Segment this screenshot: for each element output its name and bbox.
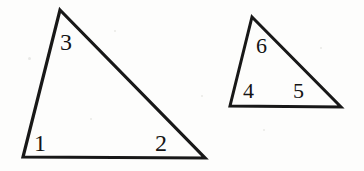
angle-label-5: 5 (293, 78, 304, 103)
labels-layer: 1 2 3 4 5 6 (34, 29, 304, 156)
left-triangle (23, 10, 205, 158)
triangles-diagram: 1 2 3 4 5 6 (0, 0, 364, 171)
angle-label-6: 6 (256, 33, 267, 58)
angle-label-2: 2 (155, 130, 167, 156)
angle-label-4: 4 (243, 78, 254, 103)
figure-canvas: 1 2 3 4 5 6 (0, 0, 364, 171)
angle-label-3: 3 (60, 29, 72, 55)
angle-label-1: 1 (34, 130, 46, 156)
